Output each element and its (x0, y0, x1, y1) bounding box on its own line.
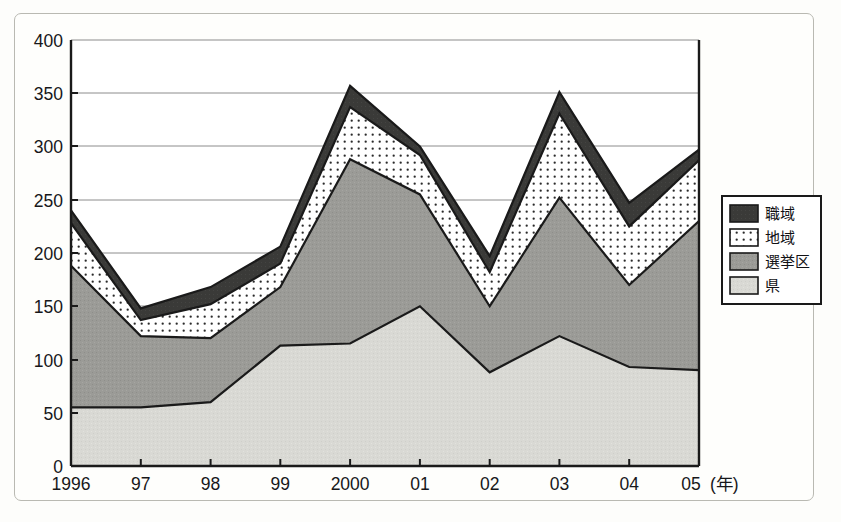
x-axis-unit-label: (年) (710, 474, 739, 494)
y-axis-tick-labels: 400 350 300 250 200 150 100 50 0 (34, 31, 63, 477)
y-tick-250: 250 (34, 191, 63, 211)
x-tick-98: 98 (201, 474, 220, 494)
x-tick-05: 05 (681, 474, 700, 494)
y-tick-300: 300 (34, 137, 63, 157)
x-tick-01: 01 (410, 474, 429, 494)
legend-label-ken: 県 (765, 277, 780, 295)
x-tick-04: 04 (619, 474, 639, 494)
x-tick-03: 03 (550, 474, 569, 494)
y-tick-150: 150 (34, 297, 63, 317)
legend-label-shokuiki: 職域 (765, 205, 795, 223)
stacked-area-chart: 400 350 300 250 200 150 100 50 0 1996 97… (0, 0, 841, 522)
y-tick-100: 100 (34, 351, 63, 371)
legend-label-chiiki: 地域 (765, 229, 795, 247)
legend-swatch-senkyoku (730, 253, 758, 270)
legend-swatch-chiiki (730, 229, 758, 246)
y-tick-400: 400 (34, 31, 63, 51)
x-tick-2000: 2000 (331, 474, 370, 494)
x-tick-1996: 1996 (52, 474, 91, 494)
x-tick-02: 02 (480, 474, 499, 494)
legend-label-senkyoku: 選挙区 (765, 253, 810, 271)
y-tick-50: 50 (44, 404, 64, 424)
y-tick-350: 350 (34, 84, 63, 104)
x-tick-97: 97 (131, 474, 150, 494)
chart-legend: 職域 地域 選挙区 県 (722, 196, 821, 304)
chart-page: 400 350 300 250 200 150 100 50 0 1996 97… (0, 0, 841, 522)
x-tick-99: 99 (271, 474, 290, 494)
y-tick-200: 200 (34, 244, 63, 264)
legend-swatch-ken (730, 277, 758, 294)
legend-swatch-shokuiki (730, 205, 758, 222)
x-axis-tick-labels: 1996 97 98 99 2000 01 02 03 04 05 (年) (52, 474, 739, 494)
